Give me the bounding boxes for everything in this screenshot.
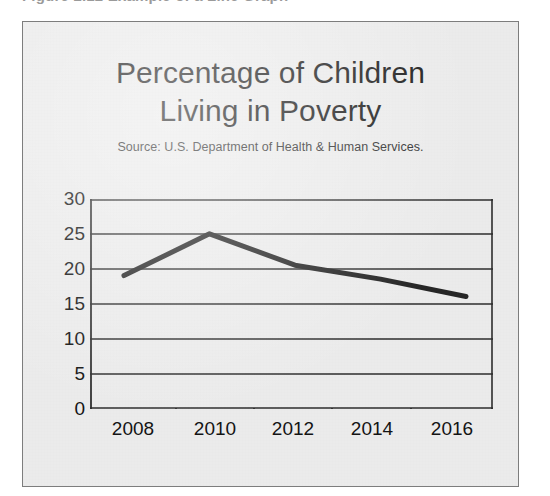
line-chart-svg [90, 199, 493, 409]
x-tick-label: 2012 [272, 418, 314, 440]
chart-source-note: Source: U.S. Department of Health & Huma… [23, 140, 518, 154]
chart-title-line-1: Percentage of Children [23, 54, 518, 92]
y-tick-label: 10 [41, 328, 85, 350]
figure-caption-remnant: Figure 2.12 Example of a Line Graph [22, 0, 442, 5]
chart-title: Percentage of ChildrenLiving in Poverty [23, 54, 518, 130]
x-axis-tick-labels: 2008 2010 2012 2014 2016 [90, 418, 493, 446]
x-tick-label: 2010 [194, 418, 236, 440]
y-tick-label: 15 [41, 293, 85, 315]
y-axis-tick-labels: 30 25 20 15 10 5 0 [35, 199, 85, 409]
y-tick-label: 0 [41, 398, 85, 420]
plot-area [90, 199, 493, 409]
y-tick-label: 20 [41, 258, 85, 280]
x-tick-label: 2016 [431, 418, 473, 440]
figure-frame: Percentage of ChildrenLiving in Poverty … [22, 21, 519, 487]
data-series-line [124, 234, 466, 297]
gridlines [90, 200, 493, 408]
y-tick-label: 5 [41, 363, 85, 385]
x-tick-label: 2014 [351, 418, 393, 440]
x-tick-label: 2008 [112, 418, 154, 440]
chart-title-line-2: Living in Poverty [23, 92, 518, 130]
y-tick-label: 30 [41, 188, 85, 210]
y-tick-label: 25 [41, 223, 85, 245]
